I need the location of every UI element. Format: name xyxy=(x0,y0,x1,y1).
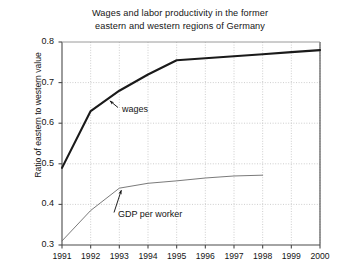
x-tick-label: 2000 xyxy=(300,251,340,261)
annotation-gdp-per-worker: GDP per worker xyxy=(118,209,182,219)
y-tick-label: 0.6 xyxy=(28,117,54,127)
y-tick-label: 0.3 xyxy=(28,239,54,249)
chart-figure: Wages and labor productivity in the form… xyxy=(0,0,345,276)
y-tick-label: 0.4 xyxy=(28,198,54,208)
annotation-wages: wages xyxy=(122,104,148,114)
y-tick-label: 0.8 xyxy=(28,36,54,46)
y-tick-label: 0.5 xyxy=(28,158,54,168)
y-tick-label: 0.7 xyxy=(28,77,54,87)
